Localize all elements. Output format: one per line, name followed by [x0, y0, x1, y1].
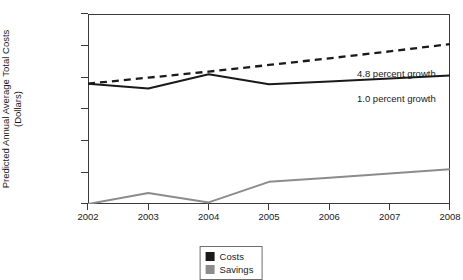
legend-swatch-savings — [206, 265, 215, 274]
x-tick-label: 2008 — [430, 211, 463, 222]
x-tick-mark — [449, 204, 450, 210]
chart-annotation: 4.8 percent growth — [357, 68, 436, 79]
y-axis-title-line-1: Predicted Annual Average Total Costs — [0, 14, 12, 204]
y-tick-mark — [81, 140, 88, 141]
x-tick-mark — [268, 204, 269, 210]
x-tick-label: 2006 — [309, 211, 349, 222]
legend-label: Costs — [220, 251, 244, 262]
y-tick-mark — [81, 172, 88, 173]
y-axis-title-line-2: (Dollars) — [12, 14, 24, 204]
legend-label: Savings — [220, 264, 254, 275]
x-tick-mark — [87, 204, 88, 210]
y-tick-mark — [81, 77, 88, 78]
x-tick-label: 2003 — [128, 211, 168, 222]
x-tick-mark — [208, 204, 209, 210]
chart-title — [88, 0, 450, 2]
x-tick-mark — [329, 204, 330, 210]
x-tick-label: 2002 — [68, 211, 108, 222]
legend-item-savings[interactable]: Savings — [206, 263, 254, 276]
legend-swatch-costs — [206, 252, 215, 261]
x-tick-label: 2007 — [370, 211, 410, 222]
y-axis-title: Predicted Annual Average Total Costs (Do… — [0, 14, 24, 204]
chart-legend: CostsSavings — [200, 246, 263, 280]
chart-container: Predicted Annual Average Total Costs (Do… — [0, 0, 463, 280]
series-line-savings — [88, 169, 450, 204]
legend-item-costs[interactable]: Costs — [206, 250, 254, 263]
y-tick-mark — [81, 13, 88, 14]
y-tick-mark — [81, 45, 88, 46]
x-tick-mark — [389, 204, 390, 210]
x-tick-label: 2005 — [249, 211, 289, 222]
series-lines — [88, 14, 450, 204]
chart-annotation: 1.0 percent growth — [357, 93, 436, 104]
x-tick-mark — [148, 204, 149, 210]
y-tick-mark — [81, 108, 88, 109]
x-tick-label: 2004 — [189, 211, 229, 222]
